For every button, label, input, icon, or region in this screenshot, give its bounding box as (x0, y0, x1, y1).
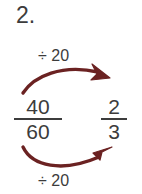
arrow-layer (0, 0, 142, 194)
worksheet-problem-canvas: 2. ÷ 20 40 60 2 3 ÷ 20 (0, 0, 142, 194)
top-curved-arrow-icon (23, 64, 110, 93)
bottom-curved-arrow-icon (23, 147, 112, 166)
